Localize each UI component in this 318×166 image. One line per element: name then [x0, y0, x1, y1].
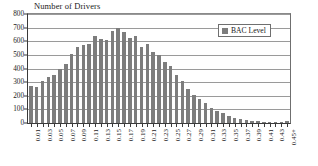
bar [99, 39, 102, 123]
x-axis-tick-mark [258, 124, 259, 127]
bar [181, 81, 184, 123]
x-axis-tick-label: 0.01 [34, 129, 42, 141]
x-axis-tick-mark [194, 124, 195, 127]
x-axis-tick-mark [31, 124, 32, 127]
x-axis-tick-mark [275, 124, 276, 127]
y-axis-tick-label: 300 [13, 78, 24, 86]
x-axis-tick-mark [89, 124, 90, 127]
bar [227, 116, 230, 123]
x-axis: 0.010.030.050.070.090.110.130.150.170.19… [27, 124, 291, 166]
y-axis-tick-label: 400 [13, 65, 24, 73]
y-axis-tick-label: 500 [13, 51, 24, 59]
bar [262, 122, 265, 123]
x-axis-tick-mark [66, 124, 67, 127]
bar [140, 47, 143, 123]
x-axis-tick-mark [142, 124, 143, 127]
y-axis: 0100200300400500600700800 [0, 13, 27, 124]
x-axis-tick-label: 0.19 [139, 129, 147, 141]
x-axis-tick-label: 0.33 [220, 129, 228, 141]
x-axis-tick-mark [54, 124, 55, 127]
x-axis-tick-label: 0.15 [115, 129, 123, 141]
bar [47, 77, 50, 123]
bar [87, 44, 90, 123]
x-axis-tick-mark [77, 124, 78, 127]
x-axis-tick-mark [235, 124, 236, 127]
x-axis-tick-mark [37, 124, 38, 127]
bar [105, 40, 108, 123]
bar [157, 55, 160, 123]
y-axis-tick-label: 600 [13, 37, 24, 45]
bar [250, 121, 253, 123]
x-axis-tick-label: 0.29 [197, 129, 205, 141]
x-axis-tick-label: 0.45+ [290, 129, 298, 145]
x-axis-tick-label: 0.21 [150, 129, 158, 141]
bar [215, 111, 218, 123]
bar [256, 121, 259, 123]
bar [239, 119, 242, 123]
bar [245, 120, 248, 123]
bar [169, 66, 172, 123]
x-axis-tick-mark [281, 124, 282, 127]
x-axis-tick-mark [112, 124, 113, 127]
x-axis-tick-label: 0.27 [185, 129, 193, 141]
bar [52, 75, 55, 123]
bar [221, 113, 224, 123]
x-axis-tick-mark [287, 124, 288, 127]
bar [122, 32, 125, 123]
x-axis-tick-mark [153, 124, 154, 127]
chart-title: Number of Drivers [34, 1, 100, 11]
bar [128, 38, 131, 123]
x-axis-tick-mark [130, 124, 131, 127]
bac-histogram-chart: Number of Drivers 0100200300400500600700… [0, 0, 318, 166]
bar [116, 28, 119, 123]
x-axis-tick-label: 0.39 [255, 129, 263, 141]
bar [163, 62, 166, 123]
x-axis-tick-label: 0.07 [69, 129, 77, 141]
bar [82, 45, 85, 123]
x-axis-tick-mark [206, 124, 207, 127]
x-axis-tick-label: 0.35 [232, 129, 240, 141]
x-axis-tick-mark [48, 124, 49, 127]
y-axis-tick-label: 800 [13, 10, 24, 18]
bar [29, 86, 32, 123]
bar [198, 99, 201, 123]
x-axis-tick-label: 0.03 [46, 129, 54, 141]
x-axis-tick-mark [95, 124, 96, 127]
x-axis-tick-mark [270, 124, 271, 127]
x-axis-tick-mark [60, 124, 61, 127]
x-axis-tick-mark [211, 124, 212, 127]
x-axis-tick-label: 0.05 [57, 129, 65, 141]
x-axis-tick-mark [241, 124, 242, 127]
bar [41, 81, 44, 123]
bar [35, 87, 38, 123]
x-axis-tick-label: 0.13 [104, 129, 112, 141]
x-axis-tick-mark [107, 124, 108, 127]
bar [186, 89, 189, 123]
x-axis-tick-mark [72, 124, 73, 127]
bar [285, 121, 288, 123]
bar [64, 64, 67, 123]
x-axis-tick-mark [229, 124, 230, 127]
x-axis-tick-mark [188, 124, 189, 127]
x-axis-tick-mark [246, 124, 247, 127]
chart-legend: BAC Level [218, 24, 271, 37]
x-axis-tick-label: 0.41 [267, 129, 275, 141]
bar [151, 52, 154, 123]
bar [233, 118, 236, 123]
x-axis-tick-mark [217, 124, 218, 127]
x-axis-tick-mark [136, 124, 137, 127]
bar [93, 36, 96, 123]
legend-label: BAC Level [231, 26, 266, 35]
y-axis-tick-label: 700 [13, 24, 24, 32]
x-axis-tick-label: 0.23 [162, 129, 170, 141]
x-axis-tick-label: 0.43 [278, 129, 286, 141]
x-axis-tick-label: 0.09 [80, 129, 88, 141]
x-axis-tick-mark [200, 124, 201, 127]
x-axis-tick-mark [101, 124, 102, 127]
bar [268, 122, 271, 123]
x-axis-tick-label: 0.17 [127, 129, 135, 141]
x-axis-tick-label: 0.11 [92, 129, 100, 141]
x-axis-tick-mark [147, 124, 148, 127]
x-axis-tick-label: 0.25 [174, 129, 182, 141]
x-axis-tick-mark [165, 124, 166, 127]
